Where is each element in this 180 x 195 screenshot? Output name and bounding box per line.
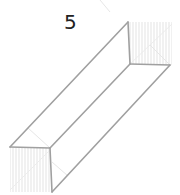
back-end-face bbox=[128, 22, 172, 65]
channel-prism-diagram bbox=[0, 0, 180, 195]
front-end-face bbox=[10, 147, 52, 192]
